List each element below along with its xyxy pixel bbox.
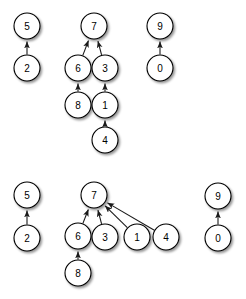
graph-node-5[interactable]: 5	[14, 13, 40, 39]
graph-node-4[interactable]: 4	[153, 224, 179, 250]
node-label-1: 1	[134, 232, 140, 243]
graph-node-0[interactable]: 0	[205, 225, 231, 251]
graph-node-9[interactable]: 9	[205, 183, 231, 209]
node-label-2: 2	[24, 233, 30, 244]
node-label-1: 1	[102, 100, 108, 111]
graph-node-1[interactable]: 1	[124, 224, 150, 250]
graph-node-1[interactable]: 1	[92, 92, 118, 118]
graph-node-5[interactable]: 5	[14, 182, 40, 208]
node-label-5: 5	[24, 190, 30, 201]
node-label-8: 8	[75, 100, 81, 111]
graph-node-6[interactable]: 6	[65, 55, 91, 81]
node-label-9: 9	[215, 191, 221, 202]
graph-node-6[interactable]: 6	[65, 223, 91, 249]
node-label-9: 9	[157, 21, 163, 32]
node-label-0: 0	[157, 63, 163, 74]
graph-node-8[interactable]: 8	[65, 260, 91, 286]
node-label-3: 3	[102, 63, 108, 74]
node-label-3: 3	[102, 232, 108, 243]
node-label-4: 4	[102, 135, 108, 146]
node-label-2: 2	[24, 63, 30, 74]
graph-node-4[interactable]: 4	[92, 127, 118, 153]
graph-node-7[interactable]: 7	[81, 13, 107, 39]
node-label-7: 7	[91, 190, 97, 201]
graph-figure: 52763814905276314890	[0, 0, 246, 299]
node-label-7: 7	[91, 21, 97, 32]
graph-node-0[interactable]: 0	[147, 55, 173, 81]
node-label-6: 6	[75, 63, 81, 74]
node-label-0: 0	[215, 233, 221, 244]
graph-node-8[interactable]: 8	[65, 92, 91, 118]
node-label-4: 4	[163, 232, 169, 243]
graph-node-2[interactable]: 2	[14, 55, 40, 81]
node-label-6: 6	[75, 231, 81, 242]
graph-node-2[interactable]: 2	[14, 225, 40, 251]
node-label-8: 8	[75, 268, 81, 279]
graph-node-3[interactable]: 3	[92, 224, 118, 250]
graph-node-9[interactable]: 9	[147, 13, 173, 39]
node-label-5: 5	[24, 21, 30, 32]
figure-background	[0, 0, 246, 299]
graph-node-3[interactable]: 3	[92, 55, 118, 81]
graph-node-7[interactable]: 7	[81, 182, 107, 208]
